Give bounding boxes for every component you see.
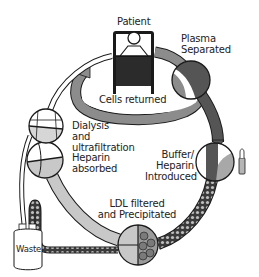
label-waste: Waste [16,244,41,255]
label-buffer-heparin: Buffer/ Heparin Introduced [145,149,194,182]
dialyser-node [29,109,63,143]
label-dialysis: Dialysis and ultrafiltration [72,120,135,153]
label-patient: Patient [117,16,150,27]
buffer-heparin-node [196,143,234,181]
ldl-filter-node [118,225,158,265]
heparin-vial-icon [239,149,245,174]
label-ldl-filtered: LDL filtered and Precipitated [92,198,182,220]
patient-bed-icon [113,31,154,94]
label-cells-returned: Cells returned [99,94,166,105]
apheresis-diagram: Patient Plasma Separated Cells returned … [0,0,259,277]
label-heparin-absorbed: Heparin absorbed [72,152,117,174]
label-plasma-separated: Plasma Separated [181,33,231,55]
